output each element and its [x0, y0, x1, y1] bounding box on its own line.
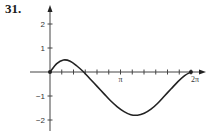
y-tick-label: −1 [36, 92, 46, 101]
y-tick-label: 2 [41, 20, 46, 29]
y-axis-arrow-icon [48, 5, 53, 12]
end-point [189, 70, 193, 74]
x-tick-label: 2π [191, 75, 199, 84]
series-line [50, 60, 191, 115]
y-tick-label: −2 [36, 116, 46, 125]
chart: π2π21−1−2 [0, 0, 224, 139]
start-point [48, 70, 52, 74]
x-tick-label: π [118, 75, 122, 84]
y-tick-label: 1 [41, 44, 46, 53]
x-axis-arrow-icon [199, 70, 206, 75]
